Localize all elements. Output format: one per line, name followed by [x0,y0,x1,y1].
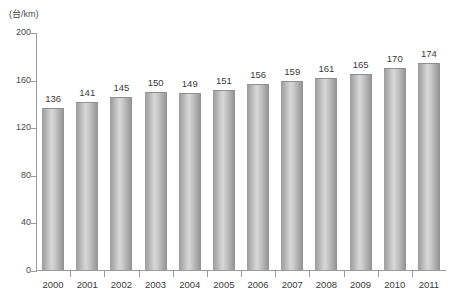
bar-value-label: 159 [284,66,300,77]
bar-body [418,63,440,270]
bar-value-label: 149 [182,78,198,89]
y-tick-mark [31,271,37,272]
y-tick-label: 80 [21,170,31,180]
y-tick-mark [31,176,37,177]
bar-value-label: 145 [113,82,129,93]
bar: 149 [179,93,201,270]
bar-body [110,97,132,270]
bar: 165 [350,74,372,270]
bar: 150 [145,92,167,271]
bar-body [384,68,406,270]
bar-body [213,90,235,270]
bar: 136 [42,108,64,270]
bar-body [247,84,269,270]
x-axis-label: 2002 [104,279,138,290]
y-tick-label: 120 [16,122,31,132]
x-axis-label: 2011 [412,279,446,290]
bar-body [281,81,303,270]
x-axis-label: 2005 [207,279,241,290]
bar: 170 [384,68,406,270]
x-separator-tick [309,271,310,277]
bar-body [315,78,337,270]
bar: 141 [76,102,98,270]
y-tick-label: 200 [16,27,31,37]
bar-value-label: 165 [353,59,369,70]
bar: 159 [281,81,303,270]
y-axis-unit-label: (台/km) [9,7,39,20]
x-separator-tick [275,271,276,277]
x-axis-label: 2001 [70,279,104,290]
bar: 161 [315,78,337,270]
bar-value-label: 174 [421,48,437,59]
bar: 156 [247,84,269,270]
x-axis-label: 2009 [344,279,378,290]
x-separator-tick [378,271,379,277]
bar: 151 [213,90,235,270]
bar-body [350,74,372,270]
x-separator-tick [139,271,140,277]
y-tick-mark [31,223,37,224]
bar-value-label: 161 [318,63,334,74]
x-separator-tick [70,271,71,277]
bar-body [145,92,167,271]
x-separator-tick [207,271,208,277]
x-axis-label: 2000 [36,279,70,290]
x-axis-label: 2008 [309,279,343,290]
y-tick-mark [31,128,37,129]
y-axis-line [36,33,37,271]
y-tick-mark [31,81,37,82]
x-axis-label: 2004 [173,279,207,290]
bar-body [179,93,201,270]
x-separator-tick [412,271,413,277]
bar-body [76,102,98,270]
y-tick-label: 40 [21,217,31,227]
bar-value-label: 170 [387,53,403,64]
bar-chart: (台/km) 04080120160200 136141145150149151… [0,0,452,305]
x-axis-label: 2003 [139,279,173,290]
bar-value-label: 141 [79,87,95,98]
x-separator-tick [241,271,242,277]
bar: 174 [418,63,440,270]
x-separator-tick [173,271,174,277]
x-axis-label: 2010 [378,279,412,290]
x-axis-label: 2007 [275,279,309,290]
y-tick-mark [31,33,37,34]
bar: 145 [110,97,132,270]
x-axis-label: 2006 [241,279,275,290]
plot-area: 04080120160200 1361411451501491511561591… [36,33,446,271]
y-tick-label: 160 [16,75,31,85]
y-tick-label: 0 [26,265,31,275]
bar-value-label: 156 [250,69,266,80]
x-separator-tick [104,271,105,277]
bar-value-label: 136 [45,93,61,104]
bar-body [42,108,64,270]
bar-value-label: 150 [148,77,164,88]
x-separator-tick [344,271,345,277]
bar-value-label: 151 [216,75,232,86]
